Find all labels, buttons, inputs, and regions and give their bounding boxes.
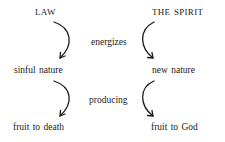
arrow-icon-sinful-to-death — [54, 81, 69, 116]
arrow-icon-spirit-to-new-nature — [143, 22, 154, 58]
arrow-icon-law-to-sinful-nature — [54, 22, 69, 58]
arrow-icon-new-to-god — [143, 81, 154, 116]
arrows-layer — [0, 0, 225, 142]
